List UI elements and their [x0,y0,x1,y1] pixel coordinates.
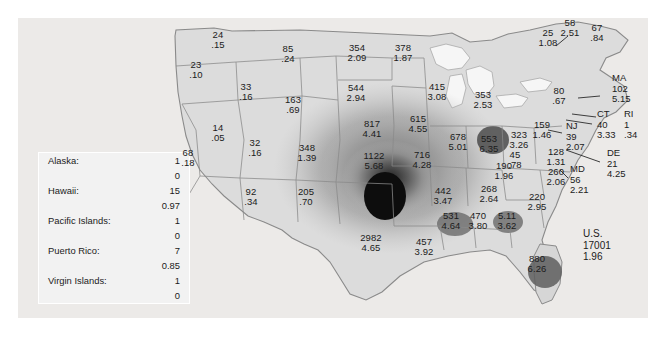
us-total-count: 17001 [583,240,611,252]
state-rate: 1.87 [387,53,419,63]
state-rate: .70 [290,197,322,207]
state-rate: 5.01 [442,142,474,152]
state-label-id: 33.16 [230,82,262,102]
state-label-tn: 2682.64 [473,184,505,204]
state-label-ny: 80.67 [543,86,575,106]
state-label-nm: 205.70 [290,187,322,207]
state-label-wi: 4153.08 [421,82,453,102]
state-label-mt: 85.24 [272,44,304,64]
legend-name-puerto-rico: Puerto Rico: [39,243,142,258]
callout-abbrev: DE [607,148,626,159]
callout-rate: 2.07 [566,142,585,153]
state-label-nh: 251.08 [532,28,564,48]
callout-label-md: MD562.21 [570,164,589,196]
callout-rate: 5.15 [612,94,631,105]
legend-count-pacific-islands: 1 [142,213,189,228]
legend-row: 0 [39,288,189,303]
us-total-rate: 1.96 [583,251,611,263]
state-rate: .69 [277,105,309,115]
state-label-me: 67.84 [581,23,613,43]
state-label-co: 3481.39 [291,143,323,163]
state-rate: 1.08 [532,38,564,48]
legend-spacer [39,288,142,303]
state-label-mo: 7164.28 [406,150,438,170]
state-label-ga: 8806.26 [521,254,553,274]
state-rate: .18 [172,158,204,168]
state-rate: 3.92 [408,247,440,257]
state-rate: 2.06 [540,177,572,187]
state-rate: .15 [202,40,234,50]
callout-abbrev: CT [597,109,616,120]
legend-spacer [39,228,142,243]
state-rate: .78 [499,160,531,170]
legend-name-alaska: Alaska: [39,153,142,168]
legend-row: Virgin Islands: 1 [39,273,189,288]
legend-row: Alaska: 1 [39,153,189,168]
legend-rate-hawaii: 0.97 [142,198,189,213]
state-rate: 4.41 [356,129,388,139]
legend-row: 0 [39,168,189,183]
map-figure: Alaska: 1 0 Hawaii: 15 0.97 Pacific Isla… [0,0,666,337]
state-label-va: 2602.06 [540,167,572,187]
legend-row: 0.85 [39,258,189,273]
legend-count-puerto-rico: 7 [142,243,189,258]
callout-abbrev: NJ [566,121,585,132]
state-label-il: 6785.01 [442,132,474,152]
us-total-label: U.S. 17001 1.96 [583,228,611,263]
callout-label-ma: MA1025.15 [612,73,631,105]
state-label-ca: 68.18 [172,148,204,168]
state-label-pa: 1591.46 [526,120,558,140]
callout-abbrev: RI [624,109,637,120]
legend-row: Puerto Rico: 7 [39,243,189,258]
state-label-nd: 3542.09 [341,43,373,63]
state-rate: .16 [239,148,271,158]
state-rate: .10 [180,70,212,80]
legend-name-hawaii: Hawaii: [39,183,142,198]
legend-name-virgin-islands: Virgin Islands: [39,273,142,288]
state-label-ms: 4703.80 [462,211,494,231]
state-label-sd: 5442.94 [340,83,372,103]
state-label-ar: 4423.47 [427,186,459,206]
state-rate: 2.53 [467,100,499,110]
cluster-core [364,172,406,220]
callout-rate: 4.25 [607,169,626,180]
state-label-or: 23.10 [180,60,212,80]
state-label-nc: 2202.95 [521,192,553,212]
state-rate: 4.65 [355,243,387,253]
callout-abbrev: MA [612,73,631,84]
legend-count-virgin-islands: 1 [142,273,189,288]
state-label-az: 92.34 [235,187,267,207]
callout-rate: .34 [624,130,637,141]
state-rate: 3.62 [491,221,523,231]
state-rate: 4.55 [402,124,434,134]
territories-legend: Alaska: 1 0 Hawaii: 15 0.97 Pacific Isla… [38,152,190,304]
state-rate: 1.31 [540,157,572,167]
legend-spacer [39,258,142,273]
state-rate: 3.47 [427,196,459,206]
state-rate: 5.68 [358,161,390,171]
legend-rate-puerto-rico: 0.85 [142,258,189,273]
state-rate: 3.80 [462,221,494,231]
state-rate: .34 [235,197,267,207]
state-rate: .24 [272,54,304,64]
legend-spacer [39,198,142,213]
callout-label-de: DE214.25 [607,148,626,180]
state-label-wa: 24.15 [202,30,234,50]
legend-rate-alaska: 0 [142,168,189,183]
callout-rate: 3.33 [597,130,616,141]
state-label-ut: 32.16 [239,138,271,158]
callout-rate: 2.21 [570,185,589,196]
legend-rate-virgin-islands: 0 [142,288,189,303]
state-label-ks: 11225.68 [358,151,390,171]
state-label-mi: 3532.53 [467,90,499,110]
legend-table: Alaska: 1 0 Hawaii: 15 0.97 Pacific Isla… [39,153,189,303]
legend-name-pacific-islands: Pacific Islands: [39,213,142,228]
state-rate: 1.39 [291,153,323,163]
legend-spacer [39,168,142,183]
state-rate: 1.46 [526,130,558,140]
state-label-tx: 29824.65 [355,233,387,253]
legend-row: Pacific Islands: 1 [39,213,189,228]
state-rate: 1.96 [488,171,520,181]
callout-label-ri: RI1.34 [624,109,637,141]
state-rate: .05 [202,133,234,143]
